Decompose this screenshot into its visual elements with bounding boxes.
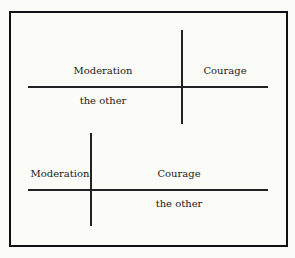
horizontal-divider	[28, 189, 268, 191]
horizontal-divider	[28, 86, 268, 88]
label-courage: Courage	[157, 168, 200, 180]
figure-frame	[9, 11, 288, 247]
label-the-other: the other	[80, 95, 127, 107]
vertical-divider	[181, 30, 183, 124]
vertical-divider	[90, 133, 92, 226]
label-moderation: Moderation	[31, 168, 90, 180]
label-courage: Courage	[203, 65, 246, 77]
label-moderation: Moderation	[74, 65, 133, 77]
label-the-other: the other	[156, 198, 203, 210]
